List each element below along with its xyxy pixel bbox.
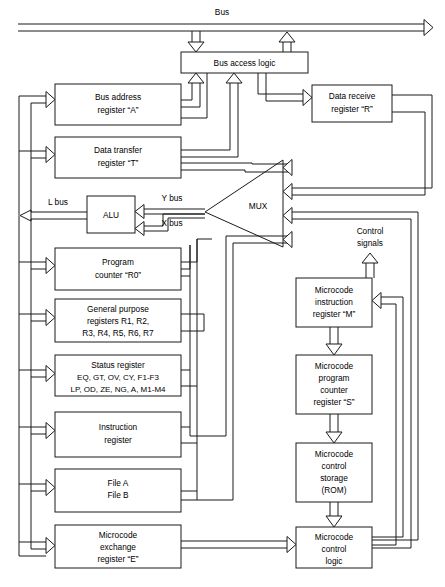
svg-text:register “E”: register “E” [97,554,138,564]
arrow-bus-access-logic-to-data-receive [258,73,312,106]
wire-register-stack-to-mux [181,232,292,501]
bus-label: Bus [215,7,229,17]
block-bus-address-register[interactable]: Bus address register “A” [55,84,181,125]
arrow-data-transfer-to-bus-access-logic [181,73,242,157]
svg-text:Microcode: Microcode [315,449,354,459]
svg-text:Data transfer: Data transfer [94,145,142,155]
arrow-microcode-program-counter-to-control-storage [326,414,342,443]
arrow-bus-to-bus-access-logic [188,31,204,52]
block-microcode-exchange-register[interactable]: Microcode exchange register “E” [55,525,181,568]
arrow-microcode-exchange-to-control-logic [181,537,296,553]
svg-text:LP, OD, ZE, NG, A, M1-M4: LP, OD, ZE, NG, A, M1-M4 [71,385,167,394]
bus-line [18,20,433,36]
svg-text:(ROM): (ROM) [322,485,347,495]
svg-text:Y bus: Y bus [161,193,182,203]
block-alu[interactable]: ALU [87,196,135,233]
block-file-ab[interactable]: File A File B [55,469,181,512]
wire-control-logic-to-microcode-instruction [372,293,403,546]
svg-text:Microcode: Microcode [315,361,354,371]
control-signals-label-line2: signals [357,238,383,248]
arrow-microcode-instruction-to-program-counter [326,327,342,355]
arrow-bus-access-logic-to-bus [279,32,295,52]
svg-text:Bus access logic: Bus access logic [214,58,276,68]
svg-text:Microcode: Microcode [315,285,354,295]
block-instruction-register[interactable]: Instruction register [55,412,181,457]
svg-text:Bus address: Bus address [95,92,141,102]
arrow-control-signals-up [362,253,378,278]
svg-text:Status register: Status register [91,360,145,370]
svg-text:registers R1, R2,: registers R1, R2, [87,316,149,326]
svg-text:register “T”: register “T” [98,158,139,168]
left-feedback-bus [19,92,55,557]
block-status-register[interactable]: Status register EQ, GT, OV, CY, F1-F3 LP… [55,355,181,396]
svg-text:register “S”: register “S” [313,397,354,407]
block-data-transfer-register[interactable]: Data transfer register “T” [55,137,181,178]
svg-text:EQ, GT, OV, CY, F1-F3: EQ, GT, OV, CY, F1-F3 [77,373,159,382]
block-microcode-instruction-register[interactable]: Microcode instruction register “M” [296,278,372,327]
svg-text:counter: counter [320,385,348,395]
block-microcode-control-logic[interactable]: Microcode control logic [296,527,372,568]
arrow-microcode-control-storage-to-control-logic [326,502,342,527]
svg-text:File B: File B [107,490,129,500]
cpu-block-diagram: Bus Bus access logic Bus [0,0,445,587]
svg-text:register: register [104,435,132,445]
svg-text:Data receive: Data receive [329,91,376,101]
svg-text:General purpose: General purpose [87,304,149,314]
svg-text:register “M”: register “M” [313,309,356,319]
svg-text:exchange: exchange [100,542,136,552]
wire-x-bus: X bus [135,214,205,236]
svg-text:register “A”: register “A” [97,105,138,115]
block-bus-access-logic[interactable]: Bus access logic [181,52,308,73]
block-microcode-control-storage[interactable]: Microcode control storage (ROM) [296,443,372,502]
svg-text:control: control [322,544,347,554]
block-program-counter[interactable]: Program counter “R0” [55,248,181,290]
svg-text:control: control [322,461,347,471]
arrow-bus-address-to-bus-access-logic [181,73,204,107]
control-signals-label-line1: Control [357,226,384,236]
block-general-purpose-registers[interactable]: General purpose registers R1, R2, R3, R4… [55,299,181,342]
svg-text:Microcode: Microcode [315,532,354,542]
svg-text:logic: logic [325,556,342,566]
block-microcode-program-counter[interactable]: Microcode program counter register “S” [296,355,372,414]
svg-text:instruction: instruction [315,297,353,307]
svg-text:MUX: MUX [249,201,268,211]
block-mux[interactable]: MUX [205,160,283,247]
svg-text:ALU: ALU [103,210,119,220]
svg-text:Microcode: Microcode [99,530,138,540]
svg-text:File A: File A [108,478,129,488]
block-data-receive-register[interactable]: Data receive register “R” [312,85,392,122]
svg-text:R3, R4, R5, R6, R7: R3, R4, R5, R6, R7 [82,328,154,338]
svg-text:storage: storage [320,473,348,483]
svg-text:register “R”: register “R” [331,104,373,114]
wire-y-bus: Y bus [135,193,205,219]
svg-text:Instruction: Instruction [99,422,138,432]
svg-text:L bus: L bus [48,197,68,207]
svg-text:program: program [319,373,350,383]
svg-text:counter “R0”: counter “R0” [95,270,141,280]
svg-text:X bus: X bus [161,218,182,228]
svg-text:Program: Program [102,257,134,267]
wire-l-bus: L bus [20,197,87,221]
